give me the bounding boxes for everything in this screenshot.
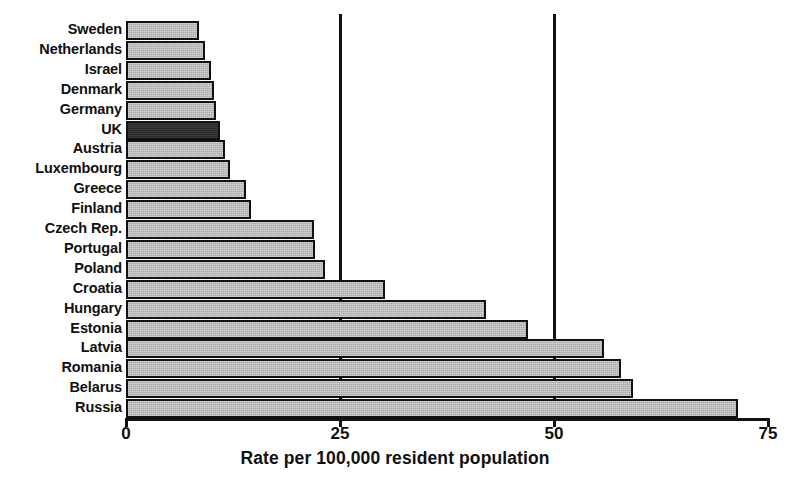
category-label: Czech Rep. <box>0 219 122 238</box>
bar-finland <box>126 200 251 219</box>
x-tick-label-50: 50 <box>545 424 564 444</box>
bar-row: Croatia <box>0 279 790 298</box>
bar-row: Denmark <box>0 80 790 99</box>
category-label: Greece <box>0 179 122 198</box>
bar-austria <box>126 140 225 159</box>
bar-hungary <box>126 300 486 319</box>
bar-row: Israel <box>0 60 790 79</box>
bar-poland <box>126 260 325 279</box>
category-label: Luxembourg <box>0 159 122 178</box>
category-label: Sweden <box>0 20 122 39</box>
x-tick-label-0: 0 <box>121 424 130 444</box>
bar-belarus <box>126 379 633 398</box>
bar-row: Portugal <box>0 239 790 258</box>
bar-sweden <box>126 21 199 40</box>
bar-row: Sweden <box>0 20 790 39</box>
bar-row: Romania <box>0 358 790 377</box>
bar-row: Poland <box>0 259 790 278</box>
bar-estonia <box>126 320 528 339</box>
category-label: Israel <box>0 60 122 79</box>
bar-romania <box>126 359 621 378</box>
bar-russia <box>126 399 738 418</box>
category-label: Netherlands <box>0 40 122 59</box>
bar-row: Greece <box>0 179 790 198</box>
bar-israel <box>126 61 211 80</box>
x-tick-label-75: 75 <box>759 424 778 444</box>
bar-row: Austria <box>0 139 790 158</box>
bar-row: Latvia <box>0 338 790 357</box>
category-label: Denmark <box>0 80 122 99</box>
category-label: Belarus <box>0 378 122 397</box>
category-label: Croatia <box>0 279 122 298</box>
category-label: Latvia <box>0 338 122 357</box>
bar-denmark <box>126 81 214 100</box>
category-label: Austria <box>0 139 122 158</box>
category-label: Poland <box>0 259 122 278</box>
bar-latvia <box>126 339 604 358</box>
category-label: Estonia <box>0 319 122 338</box>
bar-portugal <box>126 240 315 259</box>
bar-row: Estonia <box>0 319 790 338</box>
category-label: Portugal <box>0 239 122 258</box>
bar-czech-rep <box>126 220 314 239</box>
bar-row: UK <box>0 120 790 139</box>
category-label: Russia <box>0 398 122 417</box>
category-label: Hungary <box>0 299 122 318</box>
plot-area: SwedenNetherlandsIsraelDenmarkGermanyUKA… <box>0 0 790 420</box>
bar-row: Russia <box>0 398 790 417</box>
bar-germany <box>126 101 216 120</box>
bar-row: Finland <box>0 199 790 218</box>
category-label: Finland <box>0 199 122 218</box>
bar-row: Germany <box>0 100 790 119</box>
bar-row: Luxembourg <box>0 159 790 178</box>
category-label: UK <box>0 120 122 139</box>
bar-uk <box>126 121 220 140</box>
bar-row: Belarus <box>0 378 790 397</box>
bar-netherlands <box>126 41 205 60</box>
bar-row: Netherlands <box>0 40 790 59</box>
bar-row: Hungary <box>0 299 790 318</box>
bar-luxembourg <box>126 160 230 179</box>
bar-greece <box>126 180 246 199</box>
x-axis-line <box>126 418 768 421</box>
x-axis-title: Rate per 100,000 resident population <box>0 448 790 469</box>
bar-row: Czech Rep. <box>0 219 790 238</box>
category-label: Germany <box>0 100 122 119</box>
category-label: Romania <box>0 358 122 377</box>
bar-croatia <box>126 280 385 299</box>
bar-chart: SwedenNetherlandsIsraelDenmarkGermanyUKA… <box>0 0 790 478</box>
x-tick-label-25: 25 <box>331 424 350 444</box>
